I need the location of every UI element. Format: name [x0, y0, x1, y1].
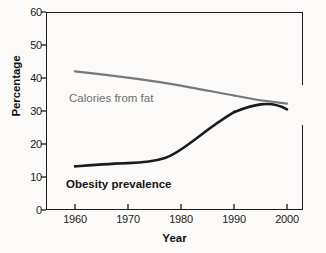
y-axis-label-20: 20 [2, 139, 42, 150]
y-axis-label-60: 60 [2, 7, 42, 18]
x-axis-label-1990: 1990 [211, 214, 257, 225]
y-axis-label-30: 30 [2, 106, 42, 117]
y-axis-label-40: 40 [2, 73, 42, 84]
x-axis-title: Year [46, 232, 303, 244]
x-axis-label-2000: 2000 [264, 214, 310, 225]
series-annotation-obesity-prevalence: Obesity prevalence [66, 179, 171, 191]
y-axis-label-50: 50 [2, 40, 42, 51]
series-annotation-calories-from-fat: Calories from fat [69, 93, 153, 105]
y-axis-label-10: 10 [2, 172, 42, 183]
x-axis-label-1980: 1980 [158, 214, 204, 225]
x-axis-label-1960: 1960 [52, 214, 98, 225]
y-axis-title: Percentage [10, 46, 22, 126]
chart-figure: 60 50 40 30 20 10 0 1960 1970 1980 1990 … [0, 0, 326, 253]
x-axis-label-1970: 1970 [105, 214, 151, 225]
x-axis-tick-labels: 1960 1970 1980 1990 2000 [0, 214, 326, 230]
